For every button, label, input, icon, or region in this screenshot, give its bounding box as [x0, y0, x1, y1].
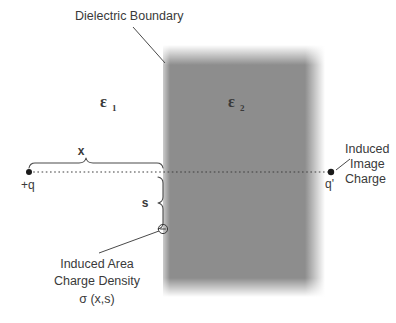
image-charge-leader-line — [336, 159, 350, 170]
sigma-callout: Induced Area Charge Density σ (x,s) — [54, 257, 141, 306]
sigma-callout-leader-line — [99, 231, 159, 253]
distance-s-brace — [158, 177, 163, 229]
source-charge-dot — [26, 169, 32, 175]
epsilon-1-label-group: ε 1 — [100, 93, 117, 113]
image-charge-callout-line-1: Induced — [345, 142, 390, 156]
image-charge-dot — [328, 169, 334, 175]
epsilon-1-subscript: 1 — [112, 103, 117, 113]
distance-s-label: s — [142, 196, 149, 210]
sigma-callout-line-1: Induced Area — [60, 257, 134, 271]
epsilon-2-label: ε — [228, 93, 235, 110]
image-charge-label: q' — [325, 177, 334, 191]
sigma-callout-line-3: σ (x,s) — [79, 292, 115, 306]
source-charge-label: +q — [21, 178, 35, 192]
dielectric-boundary-figure: Dielectric Boundary ε 1 ε 2 x +q q' Indu… — [0, 0, 396, 323]
dielectric-boundary-label: Dielectric Boundary — [75, 9, 184, 23]
dielectric-boundary-leader-line — [133, 27, 165, 63]
distance-x-label: x — [78, 144, 85, 158]
image-charge-callout-line-2: Image — [350, 157, 385, 171]
epsilon-2-subscript: 2 — [240, 103, 245, 113]
image-charge-callout: Induced Image Charge — [336, 142, 390, 186]
dielectric-region-2 — [163, 45, 325, 297]
image-charge-callout-line-3: Charge — [345, 172, 386, 186]
sigma-callout-line-2: Charge Density — [54, 274, 141, 288]
epsilon-1-label: ε — [100, 93, 107, 110]
distance-x-brace — [29, 158, 163, 168]
figure-canvas: Dielectric Boundary ε 1 ε 2 x +q q' Indu… — [0, 0, 396, 323]
